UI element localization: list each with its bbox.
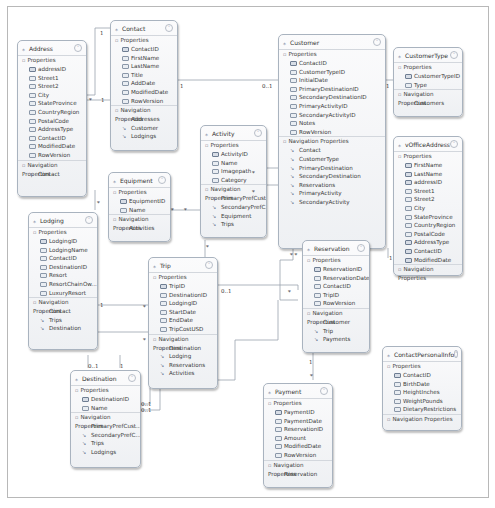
property-item[interactable]: EndDate — [149, 316, 217, 325]
entity-address[interactable]: ⁎Address˄ ▫Properties addressIDStreet1St… — [17, 40, 87, 197]
entity-header[interactable]: ⁎ContactPersonalInfo˄ — [383, 347, 461, 362]
property-item[interactable]: PaymentDate — [264, 417, 332, 426]
entity-header[interactable]: ⁎Reservation˄ — [303, 241, 369, 256]
property-item[interactable]: CountryRegion — [18, 108, 86, 117]
properties-section[interactable]: ▫Properties — [264, 399, 332, 408]
properties-section[interactable]: ▫Properties — [18, 56, 86, 65]
entity-customertype[interactable]: ⁎CustomerType˄ ▫Properties CustomerTypeI… — [393, 47, 463, 117]
property-item[interactable]: ContactID — [394, 247, 462, 256]
property-item[interactable]: PaymentID — [264, 408, 332, 417]
property-item[interactable]: ModifiedDate — [18, 142, 86, 151]
entity-header[interactable]: ⁎Equipment˄ — [109, 173, 170, 188]
entity-equipment[interactable]: ⁎Equipment˄ ▫Properties EquipmentIDName … — [108, 172, 171, 242]
navigation-property-item[interactable]: ↘Reservations — [149, 361, 217, 370]
property-item[interactable]: ResortChainOw... — [29, 280, 97, 289]
navigation-property-item[interactable]: ↘SecondaryPrefC... — [201, 203, 266, 212]
property-item[interactable]: AddressType — [18, 125, 86, 134]
entity-header[interactable]: ⁎Address˄ — [18, 41, 86, 56]
navigation-property-item[interactable]: ↘Customers — [394, 99, 462, 108]
navigation-property-item[interactable]: ↘Lodging — [149, 352, 217, 361]
navigation-property-item[interactable]: ↘Payments — [303, 335, 369, 344]
property-item[interactable]: Imagepath — [201, 167, 266, 176]
property-item[interactable]: LastName — [394, 170, 462, 179]
property-item[interactable]: ModifiedDate — [394, 256, 462, 265]
property-item[interactable]: PostalCode — [18, 117, 86, 126]
property-item[interactable]: DestinationID — [71, 395, 140, 404]
property-item[interactable]: SecondaryDestinationID — [279, 93, 385, 102]
property-item[interactable]: EquipmentID — [109, 197, 170, 206]
property-item[interactable]: ContactID — [29, 254, 97, 263]
property-item[interactable]: FirstName — [394, 161, 462, 170]
property-item[interactable]: CustomerTypeID — [394, 72, 462, 81]
properties-section[interactable]: ▫Properties — [111, 36, 177, 45]
collapse-icon[interactable]: ˄ — [450, 51, 458, 59]
navigation-section[interactable]: ▫Navigation Properties — [111, 105, 177, 115]
entity-reservation[interactable]: ⁎Reservation˄ ▫Properties ReservationIDR… — [302, 240, 370, 353]
property-item[interactable]: RowVersion — [264, 451, 332, 460]
entity-contact[interactable]: ⁎Contact˄ ▫Properties ContactIDFirstName… — [110, 20, 178, 151]
entity-header[interactable]: ⁎Activity˄ — [201, 126, 266, 141]
property-item[interactable]: ContactID — [303, 282, 369, 291]
entity-header[interactable]: ⁎CustomerType˄ — [394, 48, 462, 63]
navigation-property-item[interactable]: ↘Destination — [29, 324, 97, 333]
property-item[interactable]: TripID — [303, 291, 369, 300]
navigation-property-item[interactable]: ↘Trips — [201, 220, 266, 229]
property-item[interactable]: CountryRegion — [394, 221, 462, 230]
navigation-property-item[interactable]: ↘PrimaryActivity — [279, 189, 385, 198]
navigation-property-item[interactable]: ↘SecondaryPrefC... — [71, 431, 140, 440]
properties-section[interactable]: ▫Properties — [394, 152, 462, 161]
property-item[interactable]: Street2 — [18, 82, 86, 91]
property-item[interactable]: DestinationID — [29, 263, 97, 272]
navigation-section[interactable]: ▫Navigation Properties — [18, 160, 86, 170]
property-item[interactable]: ContactID — [383, 371, 461, 380]
navigation-section[interactable]: ▫Navigation Properties — [394, 264, 462, 274]
collapse-icon[interactable]: ˄ — [205, 261, 213, 269]
property-item[interactable]: LodgingID — [149, 299, 217, 308]
collapse-icon[interactable]: ˄ — [320, 387, 328, 395]
collapse-icon[interactable]: ˄ — [450, 140, 458, 148]
entity-header[interactable]: ⁎Customer˄ — [279, 35, 385, 50]
collapse-icon[interactable]: ˄ — [85, 216, 93, 224]
navigation-property-item[interactable]: ↘Activities — [149, 369, 217, 378]
property-item[interactable]: PrimaryDestinationID — [279, 85, 385, 94]
property-item[interactable]: PostalCode — [394, 230, 462, 239]
property-item[interactable]: ReservationDate — [303, 274, 369, 283]
property-item[interactable]: Name — [71, 404, 140, 413]
collapse-icon[interactable]: ˄ — [165, 24, 173, 32]
property-item[interactable]: addressID — [18, 65, 86, 74]
property-item[interactable]: Category — [201, 176, 266, 185]
property-item[interactable]: InitialDate — [279, 76, 385, 85]
property-item[interactable]: ContactID — [18, 134, 86, 143]
navigation-property-item[interactable]: ↘Customer — [111, 124, 177, 133]
navigation-section[interactable]: ▫Navigation Properties — [264, 460, 332, 470]
collapse-icon[interactable]: ˄ — [373, 38, 381, 46]
navigation-section[interactable]: ▫Navigation Properties — [303, 308, 369, 318]
navigation-property-item[interactable]: ↘Trip — [303, 327, 369, 336]
property-item[interactable]: FirstName — [111, 54, 177, 63]
entity-lodging[interactable]: ⁎Lodging˄ ▫Properties LodgingIDLodgingNa… — [28, 212, 98, 350]
property-item[interactable]: addressID — [394, 178, 462, 187]
property-item[interactable]: Amount — [264, 434, 332, 443]
property-item[interactable]: AddDate — [111, 79, 177, 88]
navigation-property-item[interactable]: ↘PrimaryDestination — [279, 164, 385, 173]
property-item[interactable]: Name — [109, 206, 170, 215]
property-item[interactable]: SecondaryActivityID — [279, 111, 385, 120]
property-item[interactable]: DestinationID — [149, 291, 217, 300]
entity-payment[interactable]: ⁎Payment˄ ▫Properties PaymentIDPaymentDa… — [263, 383, 333, 488]
navigation-section[interactable]: ▫Navigation Properties — [29, 297, 97, 307]
navigation-section[interactable]: ▫Navigation Properties — [201, 184, 266, 194]
property-item[interactable]: City — [394, 204, 462, 213]
entity-activity[interactable]: ⁎Activity˄ ▫Properties ActivityIDNameIma… — [200, 125, 267, 238]
property-item[interactable]: TripCostUSD — [149, 325, 217, 334]
properties-section[interactable]: ▫Properties — [201, 141, 266, 150]
property-item[interactable]: ContactID — [111, 45, 177, 54]
property-item[interactable]: LuxuryResort — [29, 289, 97, 298]
property-item[interactable]: WeightPounds — [383, 397, 461, 406]
properties-section[interactable]: ▫Properties — [383, 362, 461, 371]
navigation-section[interactable]: ▫Navigation Properties — [149, 334, 217, 344]
collapse-icon[interactable]: ˄ — [254, 129, 262, 137]
navigation-property-item[interactable]: ↘Lodgings — [111, 132, 177, 141]
property-item[interactable]: Notes — [279, 119, 385, 128]
navigation-property-item[interactable]: ↘Trips — [29, 316, 97, 325]
property-item[interactable]: AddressType — [394, 238, 462, 247]
